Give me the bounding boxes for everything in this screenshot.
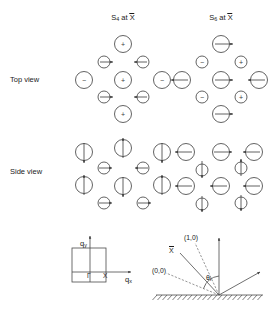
beam-label-00: (0,0) [152,268,166,275]
panel-s4-top-view: + − + − + [76,36,171,123]
svg-text:+: + [239,59,243,66]
bz-point-gamma: Γ [87,273,91,280]
svg-text:+: + [121,77,125,84]
overline-bar-scatter [169,246,174,247]
bz-axis-label-qy: qy [80,240,87,248]
figure-root: S4 at X S6 at X Top view Side view + − +… [0,0,269,315]
svg-text:−: − [82,77,86,84]
svg-text:−: − [200,59,204,66]
bz-point-x: X [103,273,107,280]
svg-text:+: + [239,94,243,101]
panel-s6-top-view: − + − + [171,36,268,123]
svg-text:−: − [160,77,164,84]
panel-s6-side-view [175,144,263,213]
svg-text:+: + [121,41,125,48]
panel-s4-side-view [76,138,171,209]
svg-text:−: − [200,94,204,101]
beam-label-xbar: X [169,247,174,254]
beam-label-10: (1,0) [184,235,198,242]
svg-text:+: + [121,111,125,118]
bz-axis-label-qx: qx [125,276,132,284]
diagram-svg: + − + − + − + [0,0,269,315]
angle-label-theta-i: θi [206,274,211,282]
